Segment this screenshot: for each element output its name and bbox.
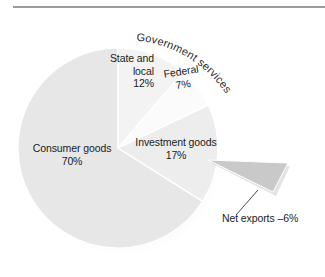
label-net-exports-text: Net exports –6% (222, 212, 322, 225)
pie-chart-figure: Government services Consumer goods 70% S… (0, 0, 325, 277)
label-net-exports: Net exports –6% (222, 212, 322, 225)
label-consumer-goods-name: Consumer goods (24, 142, 120, 155)
label-investment-goods-value: 17% (124, 149, 228, 162)
label-state-and-local: State and local 12% (98, 52, 154, 90)
label-consumer-goods: Consumer goods 70% (24, 142, 120, 167)
label-consumer-goods-value: 70% (24, 155, 120, 168)
label-investment-goods: Investment goods 17% (124, 136, 228, 161)
label-state-and-local-line1: State and (98, 52, 154, 65)
label-investment-goods-name: Investment goods (124, 136, 228, 149)
label-state-and-local-value: 12% (98, 77, 154, 90)
label-state-and-local-line2: local (98, 65, 154, 78)
